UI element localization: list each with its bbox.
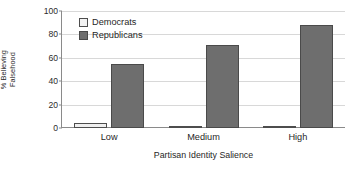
y-axis-tick-label: 20 (48, 100, 58, 110)
y-axis-line (61, 11, 62, 128)
bar-democrats-low (74, 123, 107, 128)
bar-democrats-medium (169, 126, 202, 128)
legend-swatch-democrats-icon (79, 18, 88, 27)
bar-republicans-low (111, 64, 144, 128)
bar-chart: % Believing Falsehood 020406080100 Democ… (0, 0, 349, 171)
legend-item-democrats: Democrats (79, 17, 143, 27)
legend-label-democrats: Democrats (92, 17, 136, 27)
y-axis-tick-label: 0 (53, 123, 58, 133)
x-axis-tick-label-low: Low (101, 132, 118, 142)
legend-item-republicans: Republicans (79, 30, 143, 40)
gridline (62, 11, 345, 12)
y-axis-tick-label: 40 (48, 76, 58, 86)
legend-label-republicans: Republicans (92, 30, 143, 40)
y-axis-tick-label: 80 (48, 29, 58, 39)
y-axis-tick-label: 60 (48, 53, 58, 63)
legend-swatch-republicans-icon (79, 31, 88, 40)
x-axis-tick-label-high: High (288, 132, 307, 142)
x-axis-tick-labels: LowMediumHigh (62, 132, 345, 146)
bar-democrats-high (263, 126, 296, 128)
legend: Democrats Republicans (79, 17, 143, 40)
x-axis-tick-label-medium: Medium (187, 132, 220, 142)
y-axis-tick-label: 100 (44, 6, 58, 16)
bar-republicans-medium (206, 45, 239, 128)
x-axis-title: Partisan Identity Salience (62, 150, 345, 160)
y-axis-ticks: 020406080100 (0, 11, 62, 128)
bar-republicans-high (300, 25, 333, 128)
